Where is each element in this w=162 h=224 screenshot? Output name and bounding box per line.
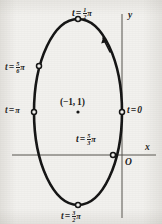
point-marker-t-three-halves-pi bbox=[76, 203, 81, 208]
center-point-dot bbox=[76, 110, 79, 113]
point-marker-t-pi bbox=[32, 110, 37, 115]
point-marker-t-five-sixths-pi bbox=[37, 64, 42, 69]
label-t-half-pi-symbol: π bbox=[87, 9, 92, 18]
point-marker-t-zero bbox=[120, 110, 125, 115]
label-t-pi-var: t bbox=[5, 105, 8, 115]
x-axis-label: x bbox=[145, 143, 150, 153]
label-t-five-sixths-pi-symbol: π bbox=[20, 63, 25, 72]
label-t-zero-eq: = bbox=[131, 105, 137, 115]
label-t-zero-var: t bbox=[127, 105, 130, 115]
center-coordinate-label: (−1, 1) bbox=[60, 98, 85, 108]
label-t-five-sixths-pi: t=56π bbox=[5, 61, 25, 75]
label-t-five-sixths-pi-fraction: 56 bbox=[16, 61, 20, 75]
label-t-three-halves-pi-var: t bbox=[61, 211, 64, 221]
label-t-five-sixths-pi-eq: = bbox=[9, 62, 15, 72]
label-t-half-pi-eq: = bbox=[76, 8, 82, 18]
label-t-five-thirds-pi-var: t bbox=[76, 134, 79, 144]
label-t-five-sixths-pi-var: t bbox=[5, 62, 8, 72]
y-axis-label: y bbox=[128, 11, 132, 21]
label-t-half-pi-var: t bbox=[72, 8, 75, 18]
label-t-half-pi: t=12π bbox=[72, 7, 92, 21]
point-marker-t-five-thirds-pi bbox=[111, 153, 116, 158]
origin-label: O bbox=[125, 158, 132, 168]
label-t-three-halves-pi-fraction: 32 bbox=[72, 210, 76, 224]
label-t-pi-eq: = bbox=[9, 105, 15, 115]
label-t-pi-symbol: π bbox=[15, 106, 20, 115]
label-t-three-halves-pi-eq: = bbox=[65, 211, 71, 221]
fraction-denominator: 3 bbox=[87, 140, 91, 146]
label-t-half-pi-fraction: 12 bbox=[83, 7, 87, 21]
fraction-denominator: 6 bbox=[16, 68, 20, 74]
label-t-three-halves-pi: t=32π bbox=[61, 210, 81, 224]
label-t-pi: t=π bbox=[5, 106, 20, 116]
label-t-five-thirds-pi-eq: = bbox=[80, 134, 86, 144]
label-t-three-halves-pi-symbol: π bbox=[76, 212, 81, 221]
fraction-denominator: 2 bbox=[72, 217, 76, 223]
label-t-five-thirds-pi-symbol: π bbox=[91, 135, 96, 144]
fraction-denominator: 2 bbox=[83, 14, 87, 20]
label-t-zero-value: 0 bbox=[137, 105, 142, 115]
label-t-zero: t=0 bbox=[127, 106, 142, 116]
label-t-five-thirds-pi-fraction: 53 bbox=[87, 133, 91, 147]
label-t-five-thirds-pi: t=53π bbox=[76, 133, 96, 147]
figure-container: t=12π t=56π t=π t=0 t=53π t=32π (−1, 1) … bbox=[0, 0, 162, 224]
